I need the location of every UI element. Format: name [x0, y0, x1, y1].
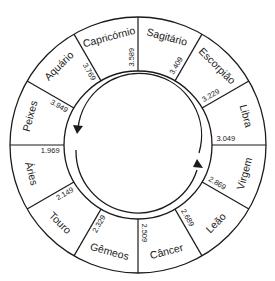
- boundary-year-label: 3.949: [49, 97, 70, 114]
- sign-label: Virgem: [234, 156, 254, 191]
- boundary-year-label: 2.689: [179, 207, 196, 228]
- boundary-year-label: 2.869: [207, 175, 228, 192]
- sign-label: Capricórnio: [81, 24, 136, 50]
- sign-label: Gêmeos: [89, 240, 130, 262]
- arrow-head-up-icon: [193, 159, 203, 168]
- boundary-year-label: 1.969: [41, 146, 60, 155]
- boundary-year-label: 3.589: [127, 48, 136, 67]
- precession-arrows: [73, 73, 203, 213]
- inner-ring: [64, 71, 212, 219]
- sign-label: Touro: [47, 209, 74, 236]
- sign-label: Escorpião: [197, 45, 239, 87]
- boundary-year-label: 3.229: [200, 87, 221, 104]
- boundary-year-label: 2.149: [54, 185, 75, 202]
- boundary-year-label: 3.409: [168, 55, 185, 76]
- sign-label: Sagitário: [145, 25, 188, 47]
- boundary-year-label: 3.049: [216, 134, 235, 143]
- arrow-arc-lower: [76, 150, 197, 213]
- sign-label: Peixes: [20, 99, 40, 133]
- sign-label: Libra: [238, 103, 256, 129]
- sign-label: Leão: [203, 210, 228, 235]
- sign-label: Aquário: [42, 49, 76, 83]
- arrow-head-down-icon: [73, 125, 83, 134]
- zodiac-wheel: SagitárioEscorpiãoLibraVirgemLeãoCâncerG…: [0, 0, 275, 281]
- arrow-arc-upper: [78, 73, 202, 153]
- boundary-year-label: 2.509: [140, 223, 149, 242]
- sign-dividers: [10, 17, 266, 273]
- sign-label: Câncer: [149, 241, 185, 261]
- boundary-year-label: 2.329: [90, 213, 107, 234]
- boundary-year-label: 3.769: [81, 61, 98, 82]
- sign-label: Áries: [23, 160, 41, 186]
